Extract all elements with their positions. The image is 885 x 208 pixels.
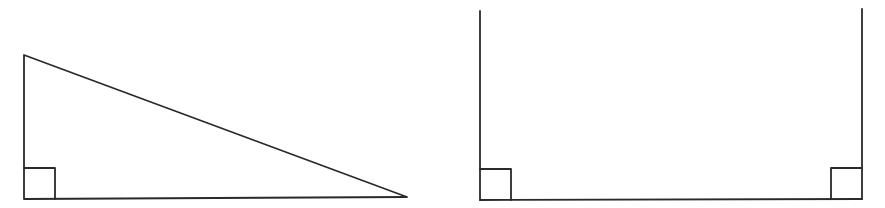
right-angle-marker: [24, 168, 55, 199]
triangle-outline: [24, 55, 407, 199]
right-triangle: [24, 55, 407, 199]
right-angle-marker-left: [480, 169, 511, 200]
base-line: [480, 199, 862, 200]
diagram-canvas: [0, 0, 885, 208]
right-angle-marker-right: [831, 168, 862, 199]
open-rectangle: [480, 9, 862, 200]
